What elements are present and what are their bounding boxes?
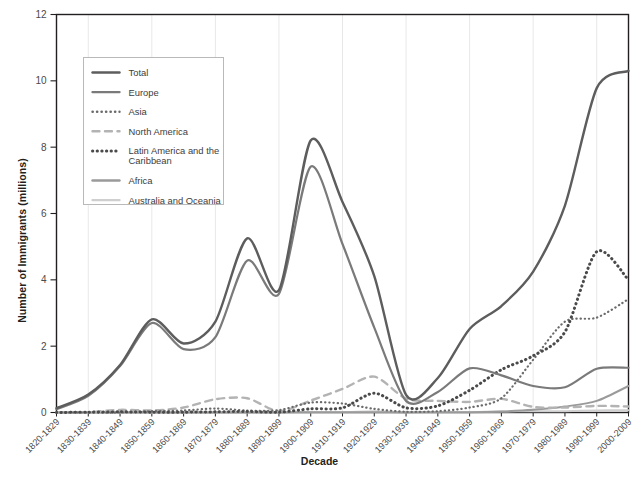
y-axis-ticks-group: 024681012 [35,9,56,418]
y-tick-label: 10 [35,75,47,86]
legend-label[interactable]: Africa [129,175,154,186]
legend-label-continued: Caribbean [129,155,172,166]
x-tick-label: 2000-2009 [595,417,633,455]
x-axis-ticks-group: 1820-18291830-18391840-18491850-18591860… [23,413,633,455]
y-tick-label: 0 [41,407,47,418]
y-tick-label: 4 [41,274,47,285]
legend-label[interactable]: Total [129,67,149,78]
legend-label[interactable]: Australia and Oceania [129,195,222,206]
legend-label[interactable]: North America [129,126,189,137]
legend-label[interactable]: Asia [129,106,148,117]
chart-figure: Number of Immigrants (millions) Decade 0… [0,0,639,481]
line-chart-svg: 024681012 1820-18291830-18391840-1849185… [0,0,639,481]
legend-label[interactable]: Europe [129,87,159,98]
y-tick-label: 8 [41,142,47,153]
y-tick-label: 12 [35,9,47,20]
chart-legend[interactable]: TotalEuropeAsiaNorth AmericaLatin Americ… [84,58,224,206]
y-tick-label: 6 [41,208,47,219]
y-tick-label: 2 [41,341,47,352]
